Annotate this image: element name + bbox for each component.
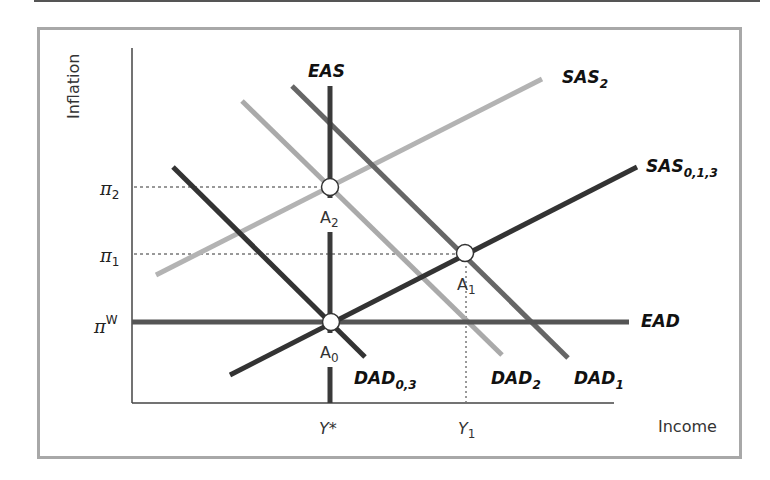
x-axis-title: Income	[658, 417, 717, 436]
ad-as-diagram: A2 A1 A0 EAS EAD SAS2 SAS0,1,3 DAD0,3 DA…	[0, 0, 770, 480]
sas013-curve	[230, 167, 637, 375]
dad1-label: DAD1	[574, 368, 624, 392]
point-a1-label: A1	[457, 275, 476, 297]
x-tick-y1: Y1	[458, 419, 475, 441]
y-tick-pi2: π2	[99, 178, 119, 202]
ead-label: EAD	[641, 311, 680, 331]
sas2-label: SAS2	[562, 67, 608, 91]
eas-label: EAS	[308, 61, 345, 81]
y-axis-title: Inflation	[64, 54, 83, 119]
x-tick-ystar: Y*	[319, 419, 337, 438]
dad03-label: DAD0,3	[354, 368, 417, 392]
point-a2-marker	[322, 179, 339, 196]
point-a2-label: A2	[320, 208, 339, 230]
y-tick-piw: πW	[93, 313, 118, 337]
y-tick-pi1: π1	[99, 245, 119, 269]
point-a0-marker	[323, 314, 340, 331]
point-a0-label: A0	[320, 343, 339, 365]
sas013-label: SAS0,1,3	[646, 156, 718, 180]
dad2-curve	[242, 101, 502, 355]
dad2-label: DAD2	[491, 368, 541, 392]
point-a1-marker	[457, 245, 474, 262]
